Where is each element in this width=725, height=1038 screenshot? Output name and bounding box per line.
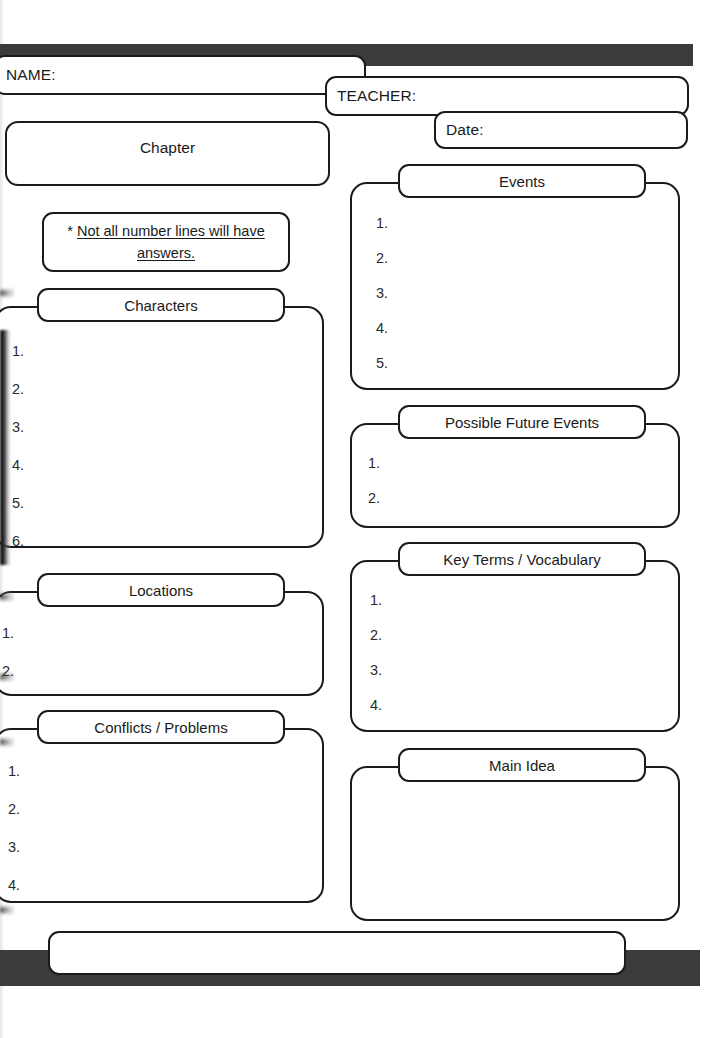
note-text-2: answers. bbox=[137, 242, 195, 264]
date-field[interactable]: Date: bbox=[434, 111, 688, 149]
list-item: 2. bbox=[370, 627, 382, 643]
list-item: 3. bbox=[8, 839, 20, 855]
teacher-label: TEACHER: bbox=[337, 87, 416, 105]
note-text-1: Not all number lines will have bbox=[77, 223, 265, 239]
characters-title: Characters bbox=[37, 288, 285, 322]
list-item: 5. bbox=[12, 495, 24, 511]
list-item: 6. bbox=[12, 533, 24, 549]
list-item: 4. bbox=[8, 877, 20, 893]
main-idea-body[interactable] bbox=[350, 766, 680, 921]
list-item: 4. bbox=[376, 320, 388, 336]
list-item: 1. bbox=[368, 455, 380, 471]
events-body[interactable] bbox=[350, 182, 680, 390]
list-item: 1. bbox=[8, 763, 20, 779]
note-marker: * bbox=[67, 223, 73, 239]
name-label: NAME: bbox=[6, 66, 56, 84]
teacher-field[interactable]: TEACHER: bbox=[325, 76, 689, 116]
scan-shadow-band bbox=[0, 330, 11, 565]
list-item: 1. bbox=[370, 592, 382, 608]
list-item: 3. bbox=[370, 662, 382, 678]
date-label: Date: bbox=[446, 121, 484, 139]
key-terms-title: Key Terms / Vocabulary bbox=[398, 542, 646, 576]
conflicts-title: Conflicts / Problems bbox=[37, 710, 285, 744]
list-item: 3. bbox=[376, 285, 388, 301]
events-title: Events bbox=[398, 164, 646, 198]
scan-shadow-spot bbox=[0, 905, 14, 915]
list-item: 3. bbox=[12, 419, 24, 435]
scan-shadow-spot bbox=[0, 592, 14, 602]
conflicts-body[interactable] bbox=[0, 728, 324, 903]
worksheet-page: NAME: TEACHER: Date: Chapter * Not all n… bbox=[0, 0, 725, 1038]
list-item: 2. bbox=[12, 381, 24, 397]
scan-shadow-spot bbox=[0, 737, 14, 747]
scan-shadow-spot bbox=[0, 288, 14, 298]
characters-body[interactable] bbox=[0, 306, 324, 548]
list-item: 4. bbox=[12, 457, 24, 473]
list-item: 1. bbox=[2, 625, 14, 641]
footer-strip-box[interactable] bbox=[48, 931, 626, 975]
future-events-title: Possible Future Events bbox=[398, 405, 646, 439]
list-item: 4. bbox=[370, 697, 382, 713]
list-item: 5. bbox=[376, 355, 388, 371]
key-terms-body[interactable] bbox=[350, 560, 680, 732]
name-field[interactable]: NAME: bbox=[0, 55, 366, 95]
main-idea-title: Main Idea bbox=[398, 748, 646, 782]
chapter-title: Chapter bbox=[140, 139, 195, 157]
locations-title: Locations bbox=[37, 573, 285, 607]
note-line-1: * Not all number lines will have bbox=[67, 220, 264, 242]
chapter-box[interactable]: Chapter bbox=[5, 121, 330, 186]
list-item: 1. bbox=[376, 215, 388, 231]
note-box: * Not all number lines will have answers… bbox=[42, 212, 290, 272]
list-item: 1. bbox=[12, 343, 24, 359]
list-item: 2. bbox=[368, 490, 380, 506]
list-item: 2. bbox=[376, 250, 388, 266]
list-item: 2. bbox=[2, 663, 14, 679]
list-item: 2. bbox=[8, 801, 20, 817]
